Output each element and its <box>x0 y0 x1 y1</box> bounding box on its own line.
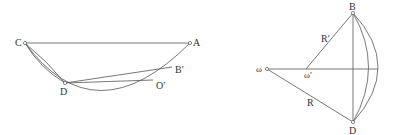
point-c <box>23 41 26 44</box>
point-omega <box>265 67 268 70</box>
point-d <box>63 81 66 84</box>
point-a <box>188 41 191 44</box>
label-r-prime: R′ <box>321 33 330 44</box>
label-r: R <box>307 97 314 108</box>
left-figure: C A D B′ O′ <box>15 37 201 97</box>
label-b: B <box>349 1 356 12</box>
label-omega-prime: ω′ <box>304 70 312 80</box>
point-d-right <box>351 120 354 123</box>
label-a: A <box>193 37 201 48</box>
label-b-prime: B′ <box>175 64 184 75</box>
label-c: C <box>15 37 22 48</box>
diagram-canvas: C A D B′ O′ B D ω ω′ R′ R <box>0 0 399 135</box>
label-omega: ω <box>256 64 262 74</box>
label-d: D <box>60 86 67 97</box>
label-d-right: D <box>349 125 356 135</box>
right-figure: B D ω ω′ R′ R <box>256 1 378 135</box>
line-d-oprime <box>65 80 153 83</box>
arc-outer-b-d <box>353 13 378 122</box>
label-o-prime: O′ <box>156 80 165 91</box>
